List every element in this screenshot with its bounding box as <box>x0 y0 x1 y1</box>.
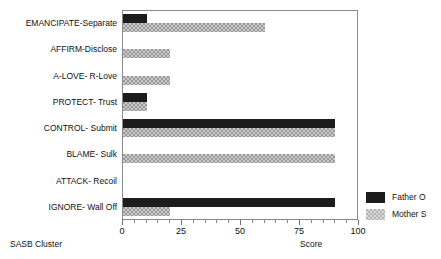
bar-father <box>123 119 335 128</box>
plot-area <box>122 10 358 220</box>
x-tick-label: 25 <box>161 225 201 237</box>
bar-father <box>123 93 147 102</box>
legend-swatch-father <box>366 192 385 203</box>
y-axis-title: SASB Cluster <box>10 239 62 250</box>
x-tick-minor <box>193 220 194 223</box>
x-axis-title: Score <box>300 239 322 250</box>
x-tick-minor <box>334 220 335 223</box>
bar-group <box>123 169 357 195</box>
x-tick-minor <box>252 220 253 223</box>
y-tick-label: IGNORE- Wall Off <box>3 202 117 212</box>
y-tick-label: EMANCIPATE-Separate <box>3 18 117 28</box>
chart-legend: Father OMother S <box>366 190 441 224</box>
bar-group <box>123 90 357 116</box>
x-tick-minor <box>146 220 147 223</box>
x-tick-label: 100 <box>338 225 378 237</box>
legend-label: Father O <box>392 192 426 203</box>
x-tick-label: 75 <box>279 225 319 237</box>
bar-father <box>123 14 147 23</box>
bar-group <box>123 142 357 168</box>
y-tick-label: BLAME- Sulk <box>3 149 117 159</box>
x-tick-label: 50 <box>220 225 260 237</box>
x-tick-label: 0 <box>102 225 142 237</box>
bar-mother <box>123 23 265 32</box>
x-tick-minor <box>264 220 265 223</box>
x-tick-minor <box>157 220 158 223</box>
x-tick-minor <box>346 220 347 223</box>
bar-chart: EMANCIPATE-SeparateAFFIRM-DiscloseA-LOVE… <box>0 0 441 259</box>
y-tick-label: A-LOVE- R-Love <box>3 71 117 81</box>
bar-mother <box>123 128 335 137</box>
legend-label: Mother S <box>392 209 427 220</box>
bar-group <box>123 11 357 37</box>
bar-group <box>123 37 357 63</box>
x-tick-minor <box>311 220 312 223</box>
x-tick-minor <box>275 220 276 223</box>
bar-mother <box>123 102 147 111</box>
legend-item: Father O <box>366 190 441 204</box>
y-tick-label: PROTECT- Trust <box>3 97 117 107</box>
x-tick-minor <box>287 220 288 223</box>
x-tick-minor <box>134 220 135 223</box>
bar-group <box>123 195 357 221</box>
bar-group <box>123 64 357 90</box>
x-tick-minor <box>323 220 324 223</box>
bar-mother <box>123 154 335 163</box>
legend-item: Mother S <box>366 207 441 221</box>
y-tick-label: CONTROL- Submit <box>3 123 117 133</box>
bar-mother <box>123 49 170 58</box>
x-tick-minor <box>205 220 206 223</box>
bar-mother <box>123 76 170 85</box>
bar-mother <box>123 207 170 216</box>
bar-father <box>123 198 335 207</box>
bar-group <box>123 116 357 142</box>
y-tick-label: ATTACK- Recoil <box>3 176 117 186</box>
x-tick-minor <box>216 220 217 223</box>
legend-swatch-mother <box>366 209 385 220</box>
x-tick-minor <box>169 220 170 223</box>
x-tick-minor <box>228 220 229 223</box>
y-tick-label: AFFIRM-Disclose <box>3 44 117 54</box>
x-axis: 0255075100 <box>122 220 358 238</box>
